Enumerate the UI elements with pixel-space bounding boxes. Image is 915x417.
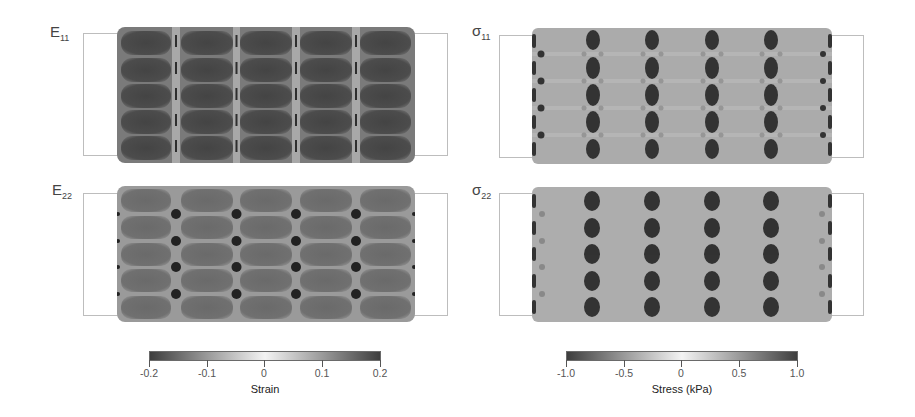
stress-tick (739, 360, 740, 367)
strain-tick-label: -0.2 (140, 367, 158, 379)
panel-label-e11: E11 (50, 24, 69, 43)
strain-tick (149, 360, 150, 367)
strain-tick (207, 360, 208, 367)
strain-colorbar (149, 351, 381, 361)
strain-tick (322, 360, 323, 367)
strain-tick-label: -0.1 (198, 367, 216, 379)
stress-colorbar (566, 351, 798, 361)
strain-tick (380, 360, 381, 367)
stress-colorbar-title: Stress (kPa) (652, 383, 713, 395)
stress-tick-label: 0.5 (732, 367, 747, 379)
stress-tick (681, 360, 682, 367)
panel-label-sigma11: σ11 (472, 23, 491, 42)
stress-field-sigma11 (532, 28, 832, 164)
strain-tick-label: 0.1 (315, 367, 330, 379)
strain-field-e22 (117, 186, 415, 322)
strain-tick-label: 0 (261, 367, 267, 379)
strain-field-e11 (117, 27, 415, 163)
stress-tick (797, 360, 798, 367)
stress-tick-label: 1.0 (790, 367, 805, 379)
strain-colorbar-title: Strain (251, 383, 280, 395)
stress-tick-label: -0.5 (615, 367, 633, 379)
stress-tick (624, 360, 625, 367)
panel-label-sigma22: σ22 (472, 182, 491, 201)
stress-tick (566, 360, 567, 367)
strain-tick-label: 0.2 (373, 367, 388, 379)
stress-field-sigma22 (532, 187, 832, 322)
stress-tick-label: -1.0 (557, 367, 575, 379)
strain-tick (264, 360, 265, 367)
stress-tick-label: 0 (678, 367, 684, 379)
panel-label-e22: E22 (52, 182, 72, 201)
